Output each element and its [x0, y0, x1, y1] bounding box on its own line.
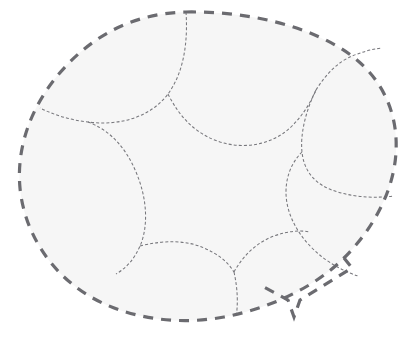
diagram-canvas [0, 0, 416, 342]
dashed-region-diagram [0, 0, 416, 342]
